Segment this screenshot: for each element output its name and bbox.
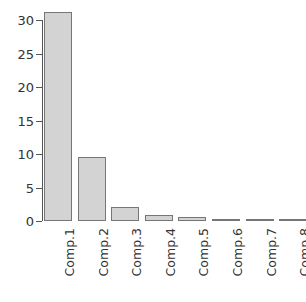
x-axis-tick-label: Comp.2 <box>98 228 111 276</box>
bar <box>78 157 106 221</box>
bar <box>246 219 274 222</box>
x-axis-tick-label: Comp.7 <box>266 228 279 276</box>
bar <box>145 215 173 221</box>
bar <box>212 219 240 222</box>
bar <box>178 217 206 221</box>
x-axis-tick-label: Comp.1 <box>64 228 77 276</box>
bar-series <box>0 0 306 302</box>
bar <box>279 219 306 222</box>
x-axis-tick-label: Comp.5 <box>198 228 211 276</box>
x-axis-tick-label: Comp.6 <box>232 228 245 276</box>
x-axis-tick-label: Comp.4 <box>165 228 178 276</box>
bar <box>44 12 72 221</box>
plot-area: 051015202530 Comp.1Comp.2Comp.3Comp.4Com… <box>0 0 306 302</box>
x-axis-tick-label: Comp.8 <box>299 228 306 276</box>
x-axis-tick-label: Comp.3 <box>131 228 144 276</box>
screeplot-figure: 051015202530 Comp.1Comp.2Comp.3Comp.4Com… <box>0 0 306 302</box>
bar <box>111 207 139 221</box>
